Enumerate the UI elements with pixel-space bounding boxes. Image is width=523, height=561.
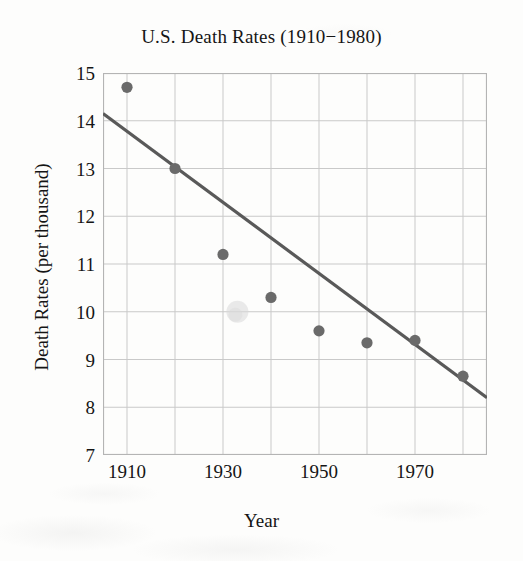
y-tick-label: 12 <box>51 207 95 226</box>
data-point <box>217 249 228 260</box>
x-tick-label: 1910 <box>87 462 167 481</box>
x-axis-tick-labels: 1910193019501970 <box>103 462 487 492</box>
x-tick-label: 1970 <box>375 462 455 481</box>
grid-lines <box>103 73 487 455</box>
regression-line <box>103 114 487 398</box>
y-tick-label: 14 <box>51 112 95 131</box>
data-point <box>121 82 132 93</box>
data-point <box>265 292 276 303</box>
x-tick-label: 1930 <box>183 462 263 481</box>
y-tick-label: 11 <box>51 255 95 274</box>
y-tick-label: 13 <box>51 160 95 179</box>
chart-page: U.S. Death Rates (1910−1980) Death Rates… <box>0 0 523 561</box>
data-point <box>313 325 324 336</box>
data-point <box>409 335 420 346</box>
y-tick-label: 15 <box>51 64 95 83</box>
data-point <box>361 337 372 348</box>
y-tick-label: 10 <box>51 303 95 322</box>
chart-title: U.S. Death Rates (1910−1980) <box>0 26 523 48</box>
y-tick-label: 8 <box>51 398 95 417</box>
x-tick-label: 1950 <box>279 462 359 481</box>
data-points <box>121 82 468 382</box>
y-tick-label: 9 <box>51 351 95 370</box>
scatter-plot-svg <box>103 73 487 455</box>
data-point <box>169 163 180 174</box>
x-axis-title: Year <box>0 510 523 532</box>
data-point <box>457 371 468 382</box>
y-axis-tick-labels: 789101112131415 <box>47 73 95 455</box>
scan-smudge-marks <box>226 301 248 323</box>
plot-area <box>103 73 487 455</box>
